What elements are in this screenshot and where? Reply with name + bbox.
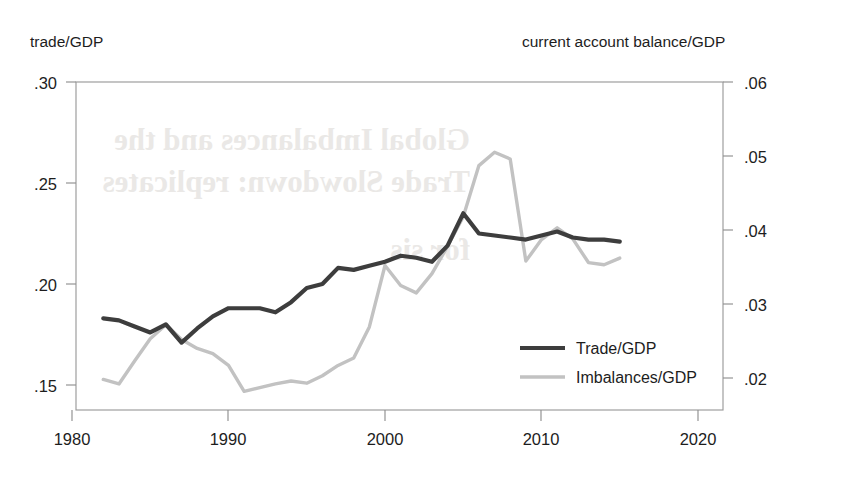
chart-figure: Global Imbalances and the Trade Slowdown… <box>0 0 842 486</box>
left-tick-label-030: .30 <box>34 74 57 92</box>
x-axis-ticks: 1980 1990 2000 2010 2020 <box>54 410 717 448</box>
left-tick-label-020: .20 <box>34 276 57 294</box>
right-tick-label-003: .03 <box>744 296 767 314</box>
legend-label-trade: Trade/GDP <box>576 340 656 357</box>
right-tick-label-004: .04 <box>744 222 767 240</box>
x-tick-label-1990: 1990 <box>210 430 247 448</box>
x-tick-label-2010: 2010 <box>523 430 560 448</box>
right-tick-label-002: .02 <box>744 370 767 388</box>
chart-svg: Global Imbalances and the Trade Slowdown… <box>0 0 842 486</box>
watermark-line-1: Global Imbalances and the <box>114 122 470 157</box>
left-tick-label-015: .15 <box>34 377 57 395</box>
x-tick-label-2020: 2020 <box>680 430 717 448</box>
right-tick-label-006: .06 <box>744 74 767 92</box>
chart-legend: Trade/GDP Imbalances/GDP <box>520 340 697 386</box>
legend-label-imbalances: Imbalances/GDP <box>576 369 697 386</box>
left-tick-label-025: .25 <box>34 175 57 193</box>
page-bleedthrough-watermark: Global Imbalances and the Trade Slowdown… <box>103 122 470 267</box>
right-axis-ticks: .06 .05 .04 .03 .02 <box>723 74 767 388</box>
left-axis-title: trade/GDP <box>30 33 103 50</box>
left-axis-ticks: .30 .25 .20 .15 <box>34 74 76 395</box>
series-line-trade <box>103 213 619 342</box>
x-tick-label-2000: 2000 <box>367 430 404 448</box>
watermark-line-2: Trade Slowdown: replicates <box>103 164 470 199</box>
right-axis-title: current account balance/GDP <box>522 33 725 50</box>
x-tick-label-1980: 1980 <box>54 430 91 448</box>
right-tick-label-005: .05 <box>744 148 767 166</box>
